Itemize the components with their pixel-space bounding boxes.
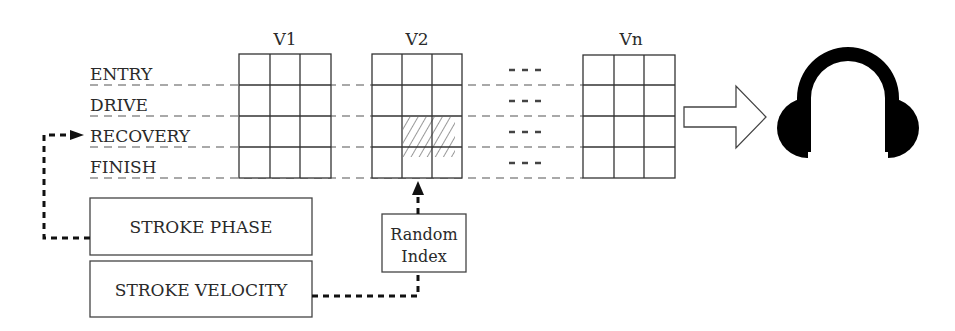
phase-label-recovery: RECOVERY [90, 126, 191, 146]
table-label-v1: V1 [272, 29, 296, 49]
phase-label-finish: FINISH [90, 157, 157, 177]
random-index-label-line1: Random [390, 225, 457, 244]
diagram-canvas: ENTRY DRIVE RECOVERY FINISH V1 V2 Vn [0, 0, 955, 331]
table-label-vn: Vn [618, 29, 642, 49]
phase-connector-arrowhead-icon [70, 130, 84, 140]
random-index-box: Random Index [382, 214, 466, 272]
stroke-phase-label: STROKE PHASE [130, 217, 273, 237]
random-index-arrowhead-icon [412, 181, 424, 195]
phase-connector-arrow [44, 135, 90, 238]
table-label-v2: V2 [404, 29, 428, 49]
random-index-label-line2: Index [401, 247, 446, 266]
headphones-icon [777, 47, 919, 158]
phase-label-drive: DRIVE [90, 95, 148, 115]
table-v2 [372, 54, 462, 178]
phase-label-entry: ENTRY [90, 64, 153, 84]
stroke-velocity-label: STROKE VELOCITY [115, 280, 288, 300]
table-vn [583, 55, 675, 178]
table-v1 [239, 54, 331, 178]
output-arrow-icon [684, 86, 766, 148]
highlighted-cell-hatch [403, 117, 455, 157]
stroke-velocity-box: STROKE VELOCITY [90, 261, 312, 317]
stroke-phase-box: STROKE PHASE [90, 198, 312, 255]
